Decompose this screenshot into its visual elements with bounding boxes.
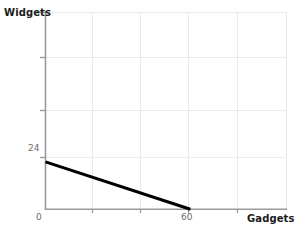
y-axis-title: Widgets <box>4 7 51 18</box>
chart-container: Widgets Gadgets 24 0 60 <box>0 0 294 237</box>
y-axis-tick-label-24: 24 <box>28 143 39 153</box>
y-axis-ticks <box>40 13 46 158</box>
data-series-budget-constraint <box>46 162 191 209</box>
gridlines <box>45 12 287 209</box>
chart-plot-area <box>0 0 294 237</box>
x-axis-tick-label-0: 0 <box>36 212 42 222</box>
data-line <box>46 162 191 209</box>
x-axis-tick-label-60: 60 <box>181 212 192 222</box>
x-axis-title: Gadgets <box>247 213 294 224</box>
